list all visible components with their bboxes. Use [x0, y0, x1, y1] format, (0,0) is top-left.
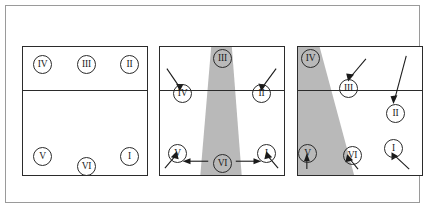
player-marker-VI: VI [213, 154, 232, 173]
player-marker-III: III [213, 49, 232, 68]
player-marker-II: II [120, 55, 139, 74]
player-marker-III: III [77, 55, 96, 74]
outer-frame: IV III II V VI I [5, 5, 420, 203]
player-marker-V: V [298, 144, 317, 163]
player-marker-V: V [168, 144, 187, 163]
player-marker-VI: VI [343, 146, 362, 165]
player-marker-V: V [33, 147, 52, 166]
figure-root: IV III II V VI I [0, 0, 427, 210]
player-marker-IV: IV [301, 49, 320, 68]
player-marker-IV: IV [173, 84, 192, 103]
player-marker-II: II [252, 84, 271, 103]
player-marker-VI: VI [77, 157, 96, 176]
player-marker-I: I [120, 147, 139, 166]
attack-line [23, 90, 147, 91]
attack-line [298, 90, 422, 91]
court-panel-2: III IV II V VI I [159, 46, 285, 176]
player-marker-II: II [386, 104, 405, 123]
player-marker-III: III [339, 79, 358, 98]
player-marker-IV: IV [33, 55, 52, 74]
court-panel-1: IV III II V VI I [22, 46, 148, 176]
player-marker-I: I [384, 139, 403, 158]
player-marker-I: I [257, 144, 276, 163]
court-panel-3: IV III II V VI I [297, 46, 423, 176]
